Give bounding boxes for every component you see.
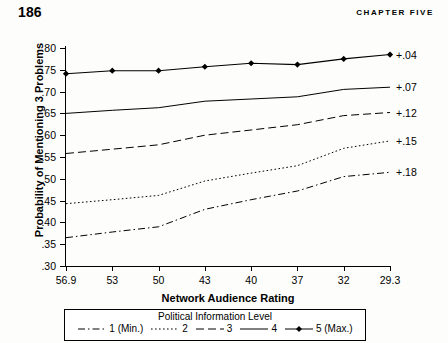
- series-line: [66, 141, 390, 204]
- legend-item[interactable]: 3: [195, 323, 233, 334]
- chapter-label: CHAPTER FIVE: [356, 8, 434, 17]
- series-line: [66, 87, 390, 113]
- running-head: 186 CHAPTER FIVE: [0, 0, 448, 26]
- series-line: [66, 172, 390, 237]
- data-point-marker: [109, 68, 115, 74]
- legend-line-swatch: [284, 324, 314, 334]
- x-axis-title: Network Audience Rating: [66, 292, 390, 304]
- legend-item-label: 1 (Min.): [109, 323, 143, 334]
- series-end-label: +.15: [396, 135, 417, 147]
- data-point-marker: [202, 64, 208, 70]
- legend-marker: [296, 326, 302, 332]
- series-line: [66, 113, 390, 154]
- legend-line-swatch: [77, 324, 107, 334]
- legend-title: Political Information Level: [65, 311, 365, 322]
- legend-item-label: 4: [271, 323, 277, 334]
- data-point-marker: [63, 71, 69, 77]
- legend-line-swatch: [195, 324, 225, 334]
- legend-item[interactable]: 5 (Max.): [284, 323, 353, 334]
- series-end-label: +.04: [396, 49, 417, 61]
- legend-item[interactable]: 1 (Min.): [77, 323, 143, 334]
- legend-line-swatch: [239, 324, 269, 334]
- page-number: 186: [18, 4, 42, 20]
- chart-figure: Probability of Mentioning 3 Problems .80…: [0, 26, 448, 343]
- legend: Political Information Level 1 (Min.)2345…: [64, 309, 366, 341]
- data-point-marker: [155, 68, 161, 74]
- data-point-marker: [341, 56, 347, 62]
- series-end-label: +.12: [396, 107, 417, 119]
- legend-line-swatch: [150, 324, 180, 334]
- series-end-label: +.18: [396, 166, 417, 178]
- data-point-marker: [248, 60, 254, 66]
- data-point-marker: [294, 61, 300, 67]
- data-point-marker: [387, 51, 393, 57]
- legend-item-label: 2: [182, 323, 188, 334]
- legend-item[interactable]: 2: [150, 323, 188, 334]
- legend-items: 1 (Min.)2345 (Max.): [65, 323, 365, 334]
- series-end-label: +.07: [396, 81, 417, 93]
- legend-item[interactable]: 4: [239, 323, 277, 334]
- legend-item-label: 5 (Max.): [316, 323, 353, 334]
- legend-item-label: 3: [227, 323, 233, 334]
